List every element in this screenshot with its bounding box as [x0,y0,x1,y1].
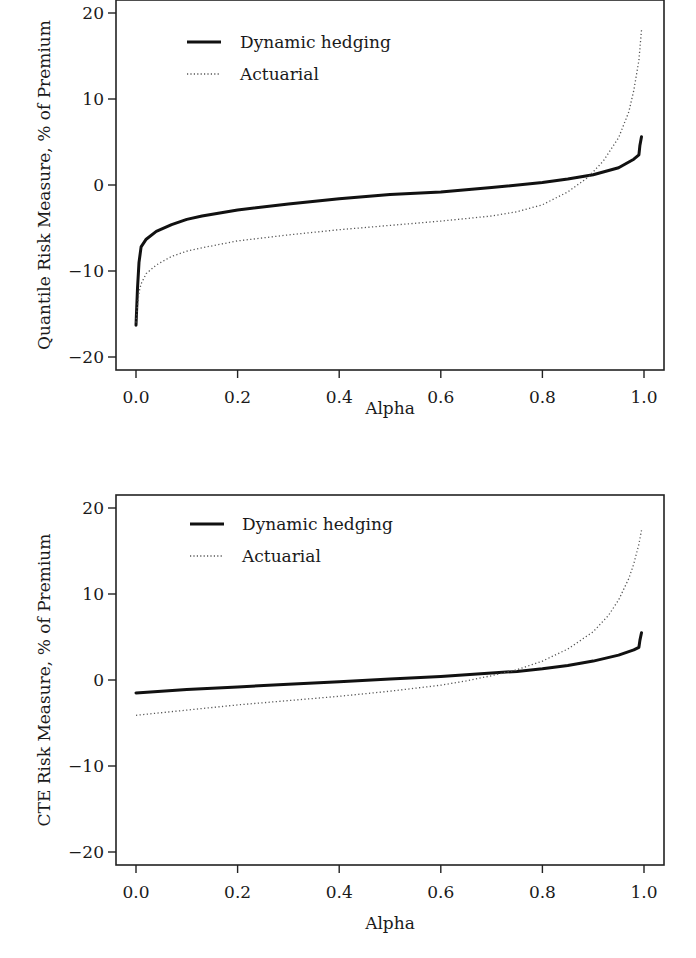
x-tick-label: 1.0 [630,882,657,902]
x-tick-label: 0.8 [529,882,556,902]
quantile-risk-panel: Quantile Risk Measure, % of Premium Alph… [34,0,664,418]
y-tick-label: −10 [68,261,104,281]
legend-label-actuarial: Actuarial [239,64,319,84]
x-tick-label: 1.0 [630,387,657,407]
legend-label-dynamic-hedging: Dynamic hedging [242,514,393,534]
y-tick-label: −20 [68,842,104,862]
y-ticks: 20100−10−20 [68,3,116,367]
legend: Dynamic hedging Actuarial [190,514,393,566]
y-tick-label: 0 [93,175,104,195]
plot-frame [116,0,664,370]
y-axis-title: Quantile Risk Measure, % of Premium [34,20,54,350]
y-tick-label: −20 [68,347,104,367]
y-tick-label: 0 [93,670,104,690]
y-tick-label: 20 [82,498,104,518]
x-ticks: 0.00.20.40.60.81.0 [122,865,657,902]
x-tick-label: 0.0 [122,387,149,407]
x-tick-label: 0.2 [224,387,251,407]
y-tick-label: 20 [82,3,104,23]
y-ticks: 20100−10−20 [68,498,116,862]
legend-label-actuarial: Actuarial [241,546,321,566]
series-line-dynamic-hedging [136,633,642,693]
x-axis-title: Alpha [364,398,415,418]
figure: Quantile Risk Measure, % of Premium Alph… [0,0,696,958]
x-tick-label: 0.2 [224,882,251,902]
y-tick-label: 10 [82,89,104,109]
series-line-dynamic-hedging [136,137,642,325]
x-tick-label: 0.6 [427,882,454,902]
x-tick-label: 0.0 [122,882,149,902]
y-axis-title: CTE Risk Measure, % of Premium [34,534,54,827]
x-axis-title: Alpha [364,913,415,933]
x-tick-label: 0.4 [326,882,353,902]
y-tick-label: −10 [68,756,104,776]
x-tick-label: 0.8 [529,387,556,407]
x-tick-label: 0.4 [326,387,353,407]
legend-label-dynamic-hedging: Dynamic hedging [240,32,391,52]
legend: Dynamic hedging Actuarial [187,32,391,84]
cte-risk-panel: CTE Risk Measure, % of Premium Alpha 0.0… [34,495,664,933]
x-tick-label: 0.6 [427,387,454,407]
series-group [136,530,642,715]
y-tick-label: 10 [82,584,104,604]
